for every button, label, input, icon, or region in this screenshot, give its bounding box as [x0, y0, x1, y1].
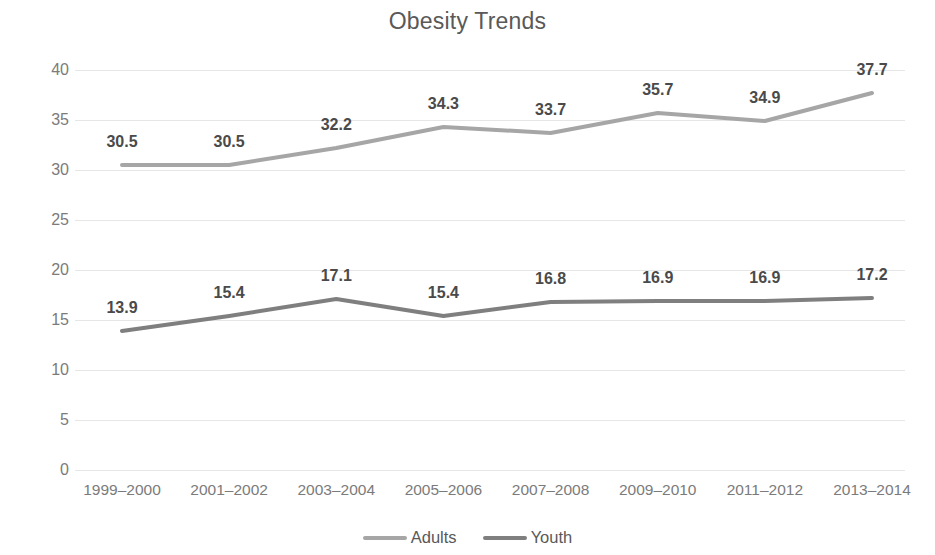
data-point-label: 32.2 — [321, 116, 352, 134]
x-axis-tick-label: 2001–2002 — [190, 481, 268, 499]
y-axis-tick-label: 0 — [23, 461, 69, 479]
legend-label: Youth — [531, 528, 573, 547]
data-point-label: 13.9 — [106, 299, 137, 317]
series-lines — [75, 70, 905, 470]
legend-line-icon — [483, 536, 527, 540]
y-axis: 0510152025303540 — [12, 70, 69, 470]
chart-title: Obesity Trends — [0, 8, 935, 35]
data-point-label: 34.9 — [749, 89, 780, 107]
legend-line-icon — [363, 536, 407, 540]
data-point-label: 15.4 — [428, 284, 459, 302]
legend-item[interactable]: Youth — [483, 528, 573, 547]
x-axis-tick-label: 2011–2012 — [727, 481, 803, 499]
x-axis-tick-label: 2003–2004 — [297, 481, 375, 499]
data-point-label: 16.9 — [642, 269, 673, 287]
data-point-label: 17.1 — [321, 267, 352, 285]
data-point-label: 15.4 — [214, 284, 245, 302]
data-point-label: 17.2 — [856, 266, 887, 284]
y-axis-tick-label: 40 — [23, 61, 69, 79]
data-point-label: 34.3 — [428, 95, 459, 113]
chart-legend: AdultsYouth — [0, 528, 935, 547]
data-point-label: 30.5 — [214, 133, 245, 151]
data-point-label: 33.7 — [535, 101, 566, 119]
y-axis-tick-label: 20 — [23, 261, 69, 279]
legend-item[interactable]: Adults — [363, 528, 457, 547]
x-axis-tick-label: 2009–2010 — [619, 481, 697, 499]
y-axis-tick-label: 25 — [23, 211, 69, 229]
y-axis-tick-label: 10 — [23, 361, 69, 379]
plot-area: 30.530.532.234.333.735.734.937.713.915.4… — [75, 70, 905, 470]
gridline — [75, 470, 905, 471]
y-axis-tick-label: 5 — [23, 411, 69, 429]
x-axis-tick-label: 2005–2006 — [405, 481, 483, 499]
x-axis-tick-label: 1999–2000 — [83, 481, 161, 499]
data-point-label: 35.7 — [642, 81, 673, 99]
x-axis: 1999–20002001–20022003–20042005–20062007… — [75, 481, 905, 507]
data-point-label: 30.5 — [106, 133, 137, 151]
x-axis-tick-label: 2013–2014 — [833, 481, 911, 499]
y-axis-tick-label: 15 — [23, 311, 69, 329]
chart-container: Obesity Trends 0510152025303540 30.530.5… — [0, 0, 935, 555]
y-axis-tick-label: 35 — [23, 111, 69, 129]
y-axis-tick-label: 30 — [23, 161, 69, 179]
x-axis-tick-label: 2007–2008 — [512, 481, 590, 499]
data-point-label: 16.8 — [535, 270, 566, 288]
legend-label: Adults — [411, 528, 457, 547]
data-point-label: 37.7 — [856, 61, 887, 79]
data-point-label: 16.9 — [749, 269, 780, 287]
series-line — [122, 298, 872, 331]
